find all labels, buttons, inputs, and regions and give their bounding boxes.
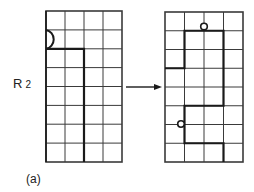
row-label-subscript: 2 [25, 79, 31, 90]
figure-caption: (a) [26, 172, 41, 186]
arrow-head-icon [154, 84, 162, 90]
row-label: R2 [13, 76, 31, 91]
top-circle-marker [201, 23, 208, 30]
right-thick-path [165, 31, 224, 162]
left-circle-marker [178, 121, 185, 128]
right-grid [165, 12, 243, 162]
half-circle-marker [46, 30, 54, 49]
arrow [126, 84, 162, 90]
transformation-diagram [0, 0, 254, 192]
row-label-main: R [13, 76, 22, 91]
